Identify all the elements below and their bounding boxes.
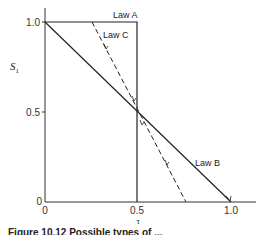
law-b-label: Law B <box>195 158 220 168</box>
arrow-icon <box>104 44 108 49</box>
y-tick-label-05: 0.5 <box>26 107 40 118</box>
law-a-line <box>45 22 137 202</box>
x-tick-label-1: 1.0 <box>224 205 238 216</box>
law-b-line <box>45 22 231 202</box>
arrow-icon <box>140 120 144 125</box>
y-tick-label-1: 1.0 <box>26 17 40 28</box>
law-c-label: Law C <box>103 30 129 40</box>
x-tick-label-05: 0.5 <box>130 205 144 216</box>
chart: 1.0 0.5 0 0 0.5 1.0 τ S1 Law A Law C Law… <box>0 0 267 235</box>
x-tick-label-0: 0 <box>42 205 48 216</box>
arrow-icon <box>165 160 169 165</box>
law-a-label: Law A <box>113 10 138 20</box>
figure-caption: Figure 10.12 Possible types of ... <box>8 227 163 235</box>
x-axis-label: τ <box>136 217 140 226</box>
y-axis-label: S1 <box>10 60 20 75</box>
